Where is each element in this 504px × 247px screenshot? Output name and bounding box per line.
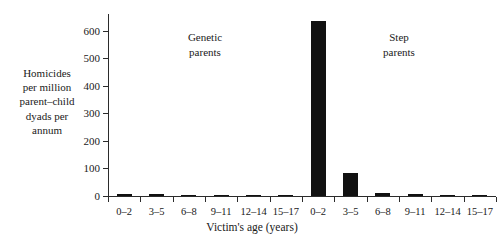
x-axis-tick [173,197,174,202]
y-axis-tick-label: 0 [95,190,101,202]
y-axis-tick-label: 400 [84,80,101,92]
chart-figure: Homicides per million parent–child dyads… [0,0,504,247]
plot-area: 0–23–56–89–1112–1415–170–23–56–89–1112–1… [108,14,496,196]
x-axis-tick [302,197,303,202]
group-annotation-line: Genetic [188,30,222,45]
x-axis-tick-label: 12–14 [434,206,460,217]
x-axis-tick [431,197,432,202]
x-axis-tick-label: 0–2 [310,206,326,217]
x-axis-tick-label: 15–17 [467,206,493,217]
x-axis-tick [334,197,335,202]
x-axis-tick-label: 15–17 [273,206,299,217]
y-axis-tick-labels: 0100200300400500600 [66,14,100,196]
group-annotation-line: parents [188,45,222,60]
bar [440,195,455,197]
y-axis-tick [103,113,108,114]
y-axis-tick-label: 100 [84,162,101,174]
x-axis-tick [367,197,368,202]
bar [214,195,229,197]
bar [375,193,390,196]
bar [278,195,293,197]
x-axis-tick [237,197,238,202]
bar [246,195,261,197]
y-axis-tick [103,86,108,87]
x-axis-title: Victim's age (years) [0,221,504,233]
x-axis-tick [496,197,497,202]
group-annotation-line: parents [383,45,415,60]
y-axis-tick [103,31,108,32]
y-axis-tick-label: 600 [84,25,101,37]
x-axis-tick-label: 6–8 [181,206,197,217]
x-axis-tick [464,197,465,202]
x-axis-tick [270,197,271,202]
y-axis-tick [103,141,108,142]
group-annotation: Stepparents [383,30,415,59]
bar [181,195,196,197]
x-axis-tick-label: 3–5 [343,206,359,217]
y-axis-line [108,14,109,196]
group-annotation: Geneticparents [188,30,222,59]
x-axis-tick-label: 9–11 [405,206,426,217]
bar [408,194,423,196]
x-axis-tick [399,197,400,202]
x-axis-tick [108,197,109,202]
x-axis-tick [140,197,141,202]
y-axis-tick-label: 500 [84,52,101,64]
bar [117,194,132,196]
y-axis-tick [103,168,108,169]
y-axis-tick-label: 200 [84,135,101,147]
y-axis-tick [103,58,108,59]
y-axis-tick-label: 300 [84,107,101,119]
x-axis-tick-label: 0–2 [116,206,132,217]
group-annotation-line: Step [383,30,415,45]
bar [343,173,358,196]
bar [472,195,487,197]
x-axis-tick-label: 6–8 [375,206,391,217]
bar [311,21,326,196]
x-axis-tick [205,197,206,202]
bar [149,194,164,196]
x-axis-tick-label: 3–5 [149,206,165,217]
x-axis-tick-label: 12–14 [240,206,266,217]
x-axis-tick-label: 9–11 [211,206,232,217]
